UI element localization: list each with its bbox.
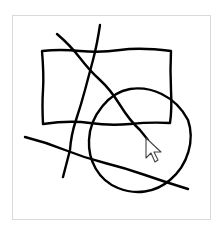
sketch-circle[interactable] (89, 88, 191, 192)
sketch-layer (0, 0, 224, 232)
caption (0, 222, 224, 232)
arrow-pointer-icon (146, 138, 161, 162)
sketch-vertical-line[interactable] (63, 25, 100, 177)
